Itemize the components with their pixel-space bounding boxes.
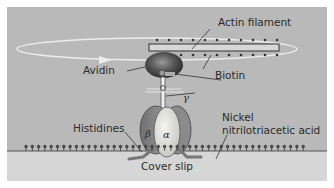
- histidines-label: Histidines: [73, 122, 125, 134]
- alpha-label: α: [163, 129, 170, 140]
- beta-label: β: [144, 128, 151, 139]
- biotin-label: Biotin: [215, 69, 245, 81]
- avidin-label: Avidin: [83, 64, 115, 76]
- cover-slip-label: Cover slip: [141, 160, 193, 172]
- nickel-label-line1: Nickel: [222, 111, 254, 123]
- actin-filament-label: Actin filament: [218, 16, 291, 28]
- nickel-label-line2: nitrilotriacetic acid: [222, 124, 320, 136]
- f1-atpase-diagram: γ β α Actin filament Avidin Biotin Histi…: [7, 7, 327, 181]
